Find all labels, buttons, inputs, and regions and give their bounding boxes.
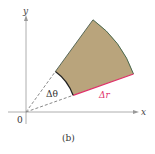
delta-theta-label: Δθ — [46, 89, 58, 99]
polar-sector-diagram: x y 0 Δθ Δr (b) — [0, 0, 155, 154]
delta-r-label: Δr — [98, 90, 110, 100]
figure-caption: (b) — [62, 133, 75, 143]
y-axis-label: y — [22, 6, 29, 16]
x-axis-arrow-icon — [133, 110, 139, 114]
origin-label: 0 — [17, 115, 23, 125]
x-axis-label: x — [141, 107, 146, 117]
